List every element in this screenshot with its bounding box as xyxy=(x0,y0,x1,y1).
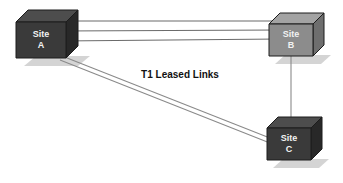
link-caption-label: T1 Leased Links xyxy=(141,69,219,80)
site-c-label-line2: C xyxy=(286,144,293,154)
site-b-label-line1: Site xyxy=(283,29,300,39)
node-site-a[interactable]: Site A xyxy=(16,10,78,58)
site-c-label-line1: Site xyxy=(281,133,298,143)
site-a-label-line2: A xyxy=(38,40,45,50)
site-a-label-line1: Site xyxy=(33,29,50,39)
node-site-c[interactable]: Site C xyxy=(267,117,322,160)
node-site-b[interactable]: Site B xyxy=(269,13,324,56)
link-site-a-to-site-b-3[interactable] xyxy=(60,39,280,41)
link-site-a-to-site-b-2[interactable] xyxy=(60,30,280,31)
network-diagram-canvas: Site A Site B Site C T1 Leased Links xyxy=(0,0,343,183)
site-b-label-line2: B xyxy=(288,40,295,50)
link-group xyxy=(60,21,291,147)
network-diagram-svg: Site A Site B Site C T1 Leased Links xyxy=(0,0,343,183)
